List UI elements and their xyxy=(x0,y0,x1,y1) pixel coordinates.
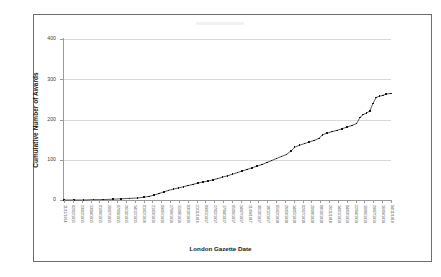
x-tick-mark xyxy=(99,200,100,203)
x-tick-label: 21/03/1916 xyxy=(150,205,154,223)
x-tick-label: 08/10/1918 xyxy=(318,205,322,223)
x-tick-mark xyxy=(108,200,109,203)
x-tick-mark xyxy=(356,200,357,203)
x-tick-mark xyxy=(82,200,83,203)
data-point xyxy=(372,103,374,105)
data-point xyxy=(192,184,194,186)
x-tick-label: 15/08/1916 xyxy=(177,205,181,223)
x-tick-label: 07/09/1915 xyxy=(115,205,119,223)
data-point xyxy=(227,175,229,177)
data-point xyxy=(375,97,377,99)
x-tick-mark xyxy=(320,200,321,203)
x-tick-mark xyxy=(126,200,127,203)
x-tick-label: 18/12/1917 xyxy=(265,205,269,223)
x-tick-mark xyxy=(364,200,365,203)
data-point xyxy=(346,126,348,128)
data-point xyxy=(326,132,328,134)
data-point xyxy=(256,165,258,167)
x-tick-label: 26/03/1918 xyxy=(283,205,287,223)
x-tick-label: 24/07/1917 xyxy=(239,205,243,223)
data-point xyxy=(187,185,189,187)
x-tick-label: 26/11/1918 xyxy=(327,205,331,223)
data-point xyxy=(102,199,104,201)
x-tick-mark xyxy=(188,200,189,203)
x-tick-mark xyxy=(64,200,65,203)
data-point xyxy=(168,190,170,192)
x-tick-label: 13/04/1915 xyxy=(88,205,92,223)
x-tick-mark xyxy=(250,200,251,203)
x-axis-line xyxy=(63,200,392,201)
data-point xyxy=(336,130,338,132)
x-tick-label: 10/06/1919 xyxy=(362,205,366,223)
y-tick-label: 0 xyxy=(30,197,56,202)
y-tick-label: 200 xyxy=(30,117,56,122)
x-tick-mark xyxy=(241,200,242,203)
x-tick-label: 17/04/1917 xyxy=(221,205,225,223)
x-tick-label: 22/04/1919 xyxy=(354,205,358,223)
x-tick-mark xyxy=(303,200,304,203)
data-point xyxy=(308,141,310,143)
x-tick-label: 11/11/1914 xyxy=(62,205,66,222)
x-tick-mark xyxy=(267,200,268,203)
x-tick-label: 21/11/1916 xyxy=(195,205,199,223)
x-tick-mark xyxy=(91,200,92,203)
data-point xyxy=(341,128,343,130)
data-point xyxy=(246,169,248,171)
x-tick-mark xyxy=(117,200,118,203)
x-tick-label: 14/01/1919 xyxy=(336,205,340,223)
data-point xyxy=(281,156,283,158)
data-point xyxy=(331,131,333,133)
x-tick-mark xyxy=(285,200,286,203)
data-point xyxy=(261,164,263,166)
data-point xyxy=(112,198,114,200)
y-tick-label: 100 xyxy=(30,157,56,162)
x-tick-label: 29/07/1919 xyxy=(371,205,375,223)
x-axis-title: London Gazette Date xyxy=(0,245,441,252)
data-point xyxy=(299,144,301,146)
data-point xyxy=(313,140,315,142)
y-tick-label: 300 xyxy=(30,77,56,82)
x-tick-label: 27/06/1916 xyxy=(168,205,172,223)
x-tick-mark xyxy=(294,200,295,203)
data-point xyxy=(202,181,204,183)
x-tick-label: 27/02/1917 xyxy=(212,205,216,223)
plot-area xyxy=(64,39,391,200)
data-point xyxy=(271,160,273,162)
data-point xyxy=(143,196,145,198)
data-point xyxy=(183,186,185,188)
x-tick-mark xyxy=(223,200,224,203)
title-placeholder-artifact xyxy=(196,22,244,25)
x-tick-mark xyxy=(73,200,74,203)
data-point xyxy=(369,110,371,112)
data-point xyxy=(163,191,165,193)
data-point xyxy=(197,182,199,184)
x-tick-mark xyxy=(373,200,374,203)
data-point xyxy=(351,125,353,127)
data-point xyxy=(129,198,131,200)
x-tick-label: 05/02/1918 xyxy=(274,205,278,223)
x-tick-mark xyxy=(144,200,145,203)
data-point xyxy=(385,93,387,95)
data-point xyxy=(286,154,288,156)
x-tick-mark xyxy=(391,200,392,203)
data-point xyxy=(318,138,320,140)
data-point xyxy=(276,158,278,160)
x-tick-mark xyxy=(214,200,215,203)
x-tick-label: 04/11/1919 xyxy=(389,205,393,223)
x-tick-label: 01/06/1915 xyxy=(97,205,101,223)
x-tick-mark xyxy=(338,200,339,203)
data-point xyxy=(137,197,139,199)
x-tick-mark xyxy=(258,200,259,203)
data-point xyxy=(304,143,306,145)
x-tick-mark xyxy=(161,200,162,203)
data-point xyxy=(232,173,234,175)
data-point xyxy=(356,123,358,125)
x-tick-mark xyxy=(197,200,198,203)
x-tick-label: 23/02/1915 xyxy=(80,205,84,223)
x-tick-label: 30/10/1917 xyxy=(256,205,260,223)
data-point xyxy=(251,167,253,169)
data-point xyxy=(266,162,268,164)
x-tick-label: 03/10/1916 xyxy=(186,205,190,223)
data-point xyxy=(153,194,155,196)
data-point xyxy=(390,93,392,95)
